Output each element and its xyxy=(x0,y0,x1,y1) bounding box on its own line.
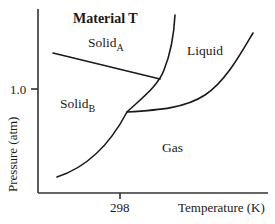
solid-a-subscript: A xyxy=(117,42,125,53)
region-label-gas: Gas xyxy=(162,140,183,155)
solid-liquid-boundary xyxy=(127,15,175,112)
phase-diagram: Material T SolidA SolidB Liquid Gas 1.0 … xyxy=(0,0,275,224)
x-tick-label: 298 xyxy=(110,200,130,215)
y-tick-label: 1.0 xyxy=(10,82,26,97)
solid-a-base: Solid xyxy=(88,35,117,50)
solidA-solidB-boundary xyxy=(53,53,160,79)
solid-b-base: Solid xyxy=(60,96,89,111)
x-axis-label: Temperature (K) xyxy=(178,200,265,215)
region-label-liquid: Liquid xyxy=(187,43,223,58)
region-label-solid-b: SolidB xyxy=(60,96,96,114)
solidB-gas-boundary xyxy=(57,112,127,177)
y-axis-label: Pressure (atm) xyxy=(5,117,20,192)
solid-b-subscript: B xyxy=(89,103,96,114)
diagram-title: Material T xyxy=(73,11,138,26)
region-label-solid-a: SolidA xyxy=(88,35,125,53)
